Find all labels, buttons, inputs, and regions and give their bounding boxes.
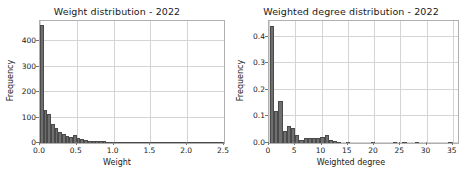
panel-weight-distribution: Weight distribution - 2022 Frequency Wei… xyxy=(0,0,234,170)
chart-title-weight: Weight distribution - 2022 xyxy=(0,6,234,17)
y-axis-tick-label: 0.3 xyxy=(235,58,265,67)
y-axis-tick-mark xyxy=(265,36,268,37)
y-axis-tick-label: 400 xyxy=(6,36,36,45)
y-axis-label-weight: Frequency xyxy=(6,51,15,111)
gridline-horizontal xyxy=(40,66,224,67)
y-axis-tick-mark xyxy=(265,115,268,116)
x-axis-tick-label: 1.0 xyxy=(107,146,119,155)
y-axis-tick-mark xyxy=(265,62,268,63)
y-axis-tick-mark xyxy=(36,66,39,67)
gridline-horizontal xyxy=(40,117,224,118)
gridline-horizontal xyxy=(40,91,224,92)
gridline-vertical xyxy=(427,21,428,143)
panel-weighted-degree-distribution: Weighted degree distribution - 2022 Freq… xyxy=(234,0,468,170)
y-axis-tick-label: 0.1 xyxy=(235,111,265,120)
gridline-vertical xyxy=(224,21,225,143)
x-axis-tick-label: 35 xyxy=(447,146,457,155)
x-axis-tick-label: 0 xyxy=(266,146,271,155)
plot-area-weighted-degree xyxy=(268,20,459,144)
figure-container: Weight distribution - 2022 Frequency Wei… xyxy=(0,0,468,170)
histogram-bar xyxy=(393,142,397,143)
gridline-vertical xyxy=(322,21,323,143)
y-axis-tick-label: 300 xyxy=(6,61,36,70)
gridline-horizontal xyxy=(269,89,458,90)
gridline-vertical xyxy=(374,21,375,143)
gridline-vertical xyxy=(295,21,296,143)
gridline-vertical xyxy=(187,21,188,143)
gridline-vertical xyxy=(77,21,78,143)
gridline-horizontal xyxy=(269,36,458,37)
x-axis-tick-mark xyxy=(76,142,77,145)
y-axis-tick-label: 0.2 xyxy=(235,84,265,93)
gridline-vertical xyxy=(114,21,115,143)
x-axis-tick-mark xyxy=(268,142,269,145)
y-axis-tick-mark xyxy=(36,117,39,118)
x-axis-label-weighted-degree: Weighted degree xyxy=(234,158,468,167)
x-axis-tick-label: 5 xyxy=(292,146,297,155)
plot-area-weight xyxy=(39,20,225,144)
x-axis-tick-mark xyxy=(373,142,374,145)
y-axis-tick-mark xyxy=(265,89,268,90)
x-axis-tick-label: 2.0 xyxy=(180,146,192,155)
y-axis-tick-label: 100 xyxy=(6,112,36,121)
gridline-horizontal xyxy=(269,115,458,116)
gridline-vertical xyxy=(400,21,401,143)
x-axis-tick-label: 0.0 xyxy=(33,146,45,155)
x-axis-tick-mark xyxy=(426,142,427,145)
y-axis-tick-mark xyxy=(36,91,39,92)
x-axis-tick-mark xyxy=(399,142,400,145)
gridline-horizontal xyxy=(40,40,224,41)
x-axis-tick-label: 25 xyxy=(394,146,404,155)
x-axis-tick-label: 20 xyxy=(368,146,378,155)
x-axis-tick-label: 1.5 xyxy=(143,146,155,155)
x-axis-tick-label: 0.5 xyxy=(70,146,82,155)
y-axis-tick-label: 0.4 xyxy=(235,31,265,40)
x-axis-tick-mark xyxy=(223,142,224,145)
chart-title-weighted-degree: Weighted degree distribution - 2022 xyxy=(234,6,468,17)
histogram-bar xyxy=(415,142,419,143)
x-axis-tick-label: 15 xyxy=(342,146,352,155)
gridline-vertical xyxy=(348,21,349,143)
x-axis-tick-mark xyxy=(186,142,187,145)
y-axis-tick-label: 200 xyxy=(6,87,36,96)
x-axis-tick-mark xyxy=(347,142,348,145)
x-axis-tick-mark xyxy=(39,142,40,145)
x-axis-label-weight: Weight xyxy=(0,158,234,167)
x-axis-tick-mark xyxy=(149,142,150,145)
y-axis-tick-label: 0.0 xyxy=(235,138,265,147)
x-axis-tick-mark xyxy=(452,142,453,145)
x-axis-tick-mark xyxy=(113,142,114,145)
gridline-vertical xyxy=(453,21,454,143)
x-axis-tick-mark xyxy=(294,142,295,145)
x-axis-tick-label: 30 xyxy=(421,146,431,155)
y-axis-tick-label: 0 xyxy=(6,138,36,147)
gridline-vertical xyxy=(150,21,151,143)
x-axis-tick-label: 2.5 xyxy=(217,146,229,155)
x-axis-tick-label: 10 xyxy=(316,146,326,155)
x-axis-tick-mark xyxy=(321,142,322,145)
y-axis-tick-mark xyxy=(36,40,39,41)
histogram-bar xyxy=(402,142,406,143)
histogram-bar xyxy=(337,142,341,143)
gridline-horizontal xyxy=(269,62,458,63)
